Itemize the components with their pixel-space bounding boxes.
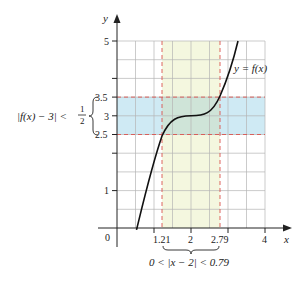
y-axis-arrow-icon xyxy=(114,14,121,23)
y-tick-1: 1 xyxy=(104,185,109,196)
origin-label: 0 xyxy=(105,232,110,243)
x-tick-1-21: 1.21 xyxy=(153,234,171,245)
fraction-numerator: 1 xyxy=(80,104,85,114)
fraction-denominator: 2 xyxy=(80,116,85,126)
curve-label: y = f(x) xyxy=(233,62,267,75)
x-tick-2: 2 xyxy=(188,234,193,245)
y-band-inequality: |f(x) − 3| < xyxy=(17,110,67,123)
x-axis-label: x xyxy=(283,233,289,245)
plot-canvas: y x 0 5 3.5 3 2.5 1 1.21 2 2.79 4 y = f(… xyxy=(0,0,305,287)
epsilon-delta-diagram: y x 0 5 3.5 3 2.5 1 1.21 2 2.79 4 y = f(… xyxy=(0,0,305,287)
x-tick-2-79: 2.79 xyxy=(211,234,229,245)
y-tick-5: 5 xyxy=(104,36,109,47)
bottom-brace-icon xyxy=(163,246,219,254)
x-axis-arrow-icon xyxy=(283,225,292,232)
x-band-inequality: 0 < |x − 2| < 0.79 xyxy=(149,256,229,268)
x-tick-4: 4 xyxy=(262,234,267,245)
y-tick-3: 3 xyxy=(104,111,109,122)
y-axis-label: y xyxy=(102,12,108,24)
